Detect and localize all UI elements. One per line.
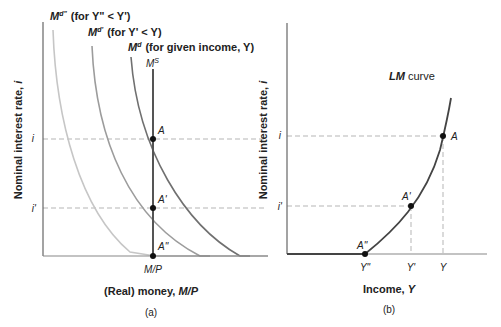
label-point-a-double-prime: A"	[157, 241, 169, 252]
label-md2: Md"(for Y" < Y')	[50, 10, 131, 22]
point-a-prime-b	[408, 203, 414, 209]
label-point-a: A	[157, 125, 165, 136]
y-tick-i-prime-a: i'	[32, 203, 37, 214]
y-tick-i-b: i	[279, 130, 282, 141]
y-tick-i-prime-b: i'	[278, 201, 283, 212]
lm-curve-label: LM curve	[389, 70, 435, 82]
label-md: Md(for given income, Y)	[128, 41, 254, 53]
x-tick-y-double-prime: Y"	[360, 262, 371, 273]
money-demand-curve-md	[131, 57, 250, 256]
x-axis-title-b: Income, Y	[363, 283, 417, 295]
money-demand-curve-md2	[53, 30, 155, 256]
label-point-a-b: A	[450, 131, 458, 142]
x-tick-mp: M/P	[144, 264, 162, 275]
point-a-double-prime-b	[362, 251, 368, 257]
caption-a: (a)	[145, 307, 157, 318]
caption-b: (b)	[383, 304, 395, 315]
label-md1: Md'(for Y' < Y)	[88, 26, 162, 38]
y-axis-title-a: Nominal interest rate, i	[12, 80, 24, 200]
label-point-a-prime: A'	[157, 194, 168, 205]
y-tick-i-a: i	[32, 133, 35, 144]
label-point-a-double-prime-b: A"	[356, 240, 368, 251]
x-tick-y: Y	[440, 262, 448, 273]
point-a-double-prime	[150, 253, 156, 259]
point-a-b	[440, 133, 446, 139]
x-axis-title-a: (Real) money, M/P	[104, 285, 199, 297]
x-tick-y-prime: Y'	[407, 262, 417, 273]
point-a-prime	[150, 205, 156, 211]
point-a	[150, 136, 156, 142]
panel-a-money-market: A A' A" i i' M/P Md"(for Y" < Y') Md'(fo…	[12, 10, 268, 318]
label-money-supply: MS	[146, 57, 159, 69]
money-demand-curve-md1	[92, 46, 210, 256]
is-lm-money-market-diagram: A A' A" i i' M/P Md"(for Y" < Y') Md'(fo…	[0, 0, 501, 327]
y-axis-title-b: Nominal interest rate, i	[257, 80, 269, 200]
label-point-a-prime-b: A'	[401, 191, 412, 202]
panel-b-lm-curve: A A' A" i i' Y" Y' Y LM curve Nominal in…	[257, 23, 487, 315]
lm-curve	[287, 98, 451, 254]
